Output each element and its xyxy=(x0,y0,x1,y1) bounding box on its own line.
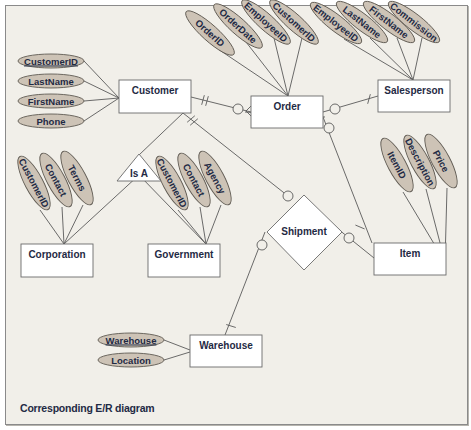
relationship-shipment: Shipment xyxy=(267,195,342,270)
attribute-label: Phone xyxy=(36,116,65,127)
attribute-label: LastName xyxy=(28,76,73,87)
relationship-label: Is A xyxy=(130,168,148,179)
attribute-customer-firstname: FirstName xyxy=(18,94,84,108)
entity-label: Customer xyxy=(132,85,179,96)
relationship-lines xyxy=(64,94,378,335)
entity-item: Item xyxy=(374,243,446,275)
entity-warehouse: Warehouse xyxy=(190,335,262,367)
shapes: Is AShipmentCustomerOrderSalespersonCorp… xyxy=(21,80,450,367)
attribute-label: FirstName xyxy=(28,96,74,107)
er-diagram-canvas: CustomerIDLastNameFirstNamePhoneOrderIDO… xyxy=(0,0,471,430)
attribute-label: Location xyxy=(111,355,151,366)
attribute-customer-customerid: CustomerID xyxy=(18,54,84,68)
connector-lines xyxy=(34,22,449,360)
entity-label: Warehouse xyxy=(199,340,253,351)
entity-label: Salesperson xyxy=(384,85,443,96)
entity-label: Order xyxy=(273,101,300,112)
entity-order: Order xyxy=(251,96,323,128)
entity-corporation: Corporation xyxy=(21,244,93,277)
er-diagram: CustomerIDLastNameFirstNamePhoneOrderIDO… xyxy=(0,0,471,430)
entity-government: Government xyxy=(148,244,220,277)
attribute-label: CustomerID xyxy=(24,56,78,67)
entity-label: Item xyxy=(400,248,421,259)
relationship-label: Shipment xyxy=(281,226,327,237)
attribute-customer-phone: Phone xyxy=(18,114,84,128)
entity-label: Corporation xyxy=(28,249,85,260)
attribute-label: Warehouse xyxy=(106,335,157,346)
relationship-is-a: Is A xyxy=(117,154,161,181)
entity-salesperson: Salesperson xyxy=(378,80,450,112)
entity-customer: Customer xyxy=(119,80,191,113)
attributes: CustomerIDLastNameFirstNamePhoneOrderIDO… xyxy=(12,0,463,367)
diagram-caption: Corresponding E/R diagram xyxy=(20,402,154,414)
attribute-warehouse-warehouse: Warehouse xyxy=(98,333,164,347)
attribute-customer-lastname: LastName xyxy=(18,74,84,88)
attribute-warehouse-location: Location xyxy=(98,353,164,367)
entity-label: Government xyxy=(155,249,215,260)
